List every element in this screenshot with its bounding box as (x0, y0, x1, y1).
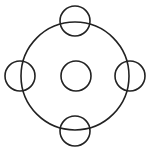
center-circle (61, 61, 91, 91)
circle-diagram (0, 0, 150, 150)
top-circle (60, 6, 90, 36)
right-circle (115, 61, 145, 91)
outer-circle (21, 22, 129, 130)
bottom-circle (60, 116, 90, 146)
left-circle (5, 61, 35, 91)
